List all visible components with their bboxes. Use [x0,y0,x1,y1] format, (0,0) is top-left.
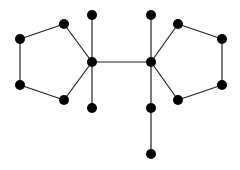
node-L2 [59,19,69,29]
nodes-group [15,10,227,159]
node-R1 [217,34,227,44]
edge-R2-R1 [178,24,222,39]
edge-L4-L5 [20,85,64,100]
graph-diagram [0,0,240,170]
node-L3 [87,57,97,67]
edge-R3-R2 [151,24,178,62]
edge-L2-L3 [64,24,92,62]
node-RB2 [146,149,156,159]
edge-L1-L2 [20,24,64,39]
node-R2 [173,19,183,29]
node-RT [146,10,156,20]
edges-group [20,15,222,154]
node-L5 [15,80,25,90]
node-RB [146,103,156,113]
node-L1 [15,34,25,44]
node-LT [87,10,97,20]
node-R4 [173,95,183,105]
edge-R5-R4 [178,85,222,100]
node-R3 [146,57,156,67]
node-L4 [59,95,69,105]
node-LB [87,103,97,113]
node-R5 [217,80,227,90]
edge-R4-R3 [151,62,178,100]
edge-L3-L4 [64,62,92,100]
